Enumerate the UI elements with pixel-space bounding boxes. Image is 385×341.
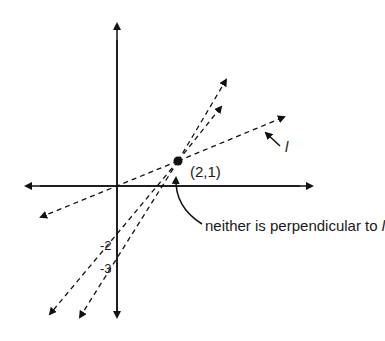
line-l-pointer-arrow [266, 133, 280, 146]
line-l [41, 117, 284, 217]
line-l-label: l [285, 139, 288, 154]
point-2-1 [174, 157, 183, 166]
y-intercept-label-minus-2: -2 [100, 239, 112, 252]
annotation-text: neither is perpendicular to l [205, 218, 385, 233]
y-intercept-label-minus-3: -3 [100, 262, 112, 275]
line-y-intercept-minus-3 [80, 107, 221, 317]
point-label: (2,1) [190, 164, 221, 179]
line-y-intercept-minus-2 [50, 80, 226, 314]
annotation-arrow [176, 178, 202, 224]
annotation-prefix: neither is perpendicular to [205, 217, 382, 234]
